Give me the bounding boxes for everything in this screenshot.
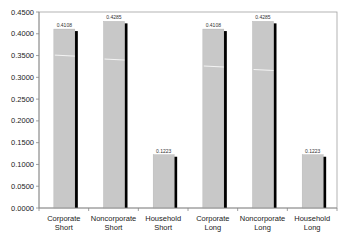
y-tick-label: 0.0000 xyxy=(11,204,34,213)
bar-chart: 0.00000.05000.10000.15000.20000.25000.30… xyxy=(0,0,354,238)
y-tick-label: 0.4500 xyxy=(11,8,34,17)
x-tick-label: Household xyxy=(294,214,330,223)
bar: 0.1223 xyxy=(302,148,326,208)
bar-fill xyxy=(153,155,174,208)
y-axis: 0.00000.05000.10000.15000.20000.25000.30… xyxy=(11,8,39,213)
data-label: 0.4285 xyxy=(255,14,271,20)
bar: 0.1223 xyxy=(153,148,177,208)
y-tick-label: 0.3000 xyxy=(11,73,34,82)
bar-shadow xyxy=(125,23,128,208)
plot-area xyxy=(39,12,337,208)
x-axis: CorporateShortNoncorporateShortHousehold… xyxy=(39,208,337,232)
y-tick-label: 0.4000 xyxy=(11,29,34,38)
bar: 0.4108 xyxy=(54,22,78,208)
x-tick-label: Long xyxy=(204,223,221,232)
y-tick-label: 0.1500 xyxy=(11,138,34,147)
y-tick-label: 0.0500 xyxy=(11,182,34,191)
x-tick-label: Noncorporate xyxy=(240,214,285,223)
x-tick-label: Long xyxy=(254,223,271,232)
y-tick-label: 0.2500 xyxy=(11,95,34,104)
x-tick-label: Household xyxy=(145,214,181,223)
bar: 0.4108 xyxy=(203,22,227,208)
y-tick-label: 0.2000 xyxy=(11,116,34,125)
bar: 0.4285 xyxy=(104,14,128,208)
bar-shadow xyxy=(75,31,78,208)
y-tick-label: 0.1000 xyxy=(11,160,34,169)
x-tick-label: Long xyxy=(304,223,321,232)
bar-fill xyxy=(302,155,323,208)
y-tick-label: 0.3500 xyxy=(11,51,34,60)
data-label: 0.4285 xyxy=(106,14,122,20)
bar-shadow xyxy=(274,23,277,208)
bar-shadow xyxy=(224,31,227,208)
data-label: 0.1223 xyxy=(305,148,321,154)
bar-fill xyxy=(253,21,274,208)
data-label: 0.4108 xyxy=(57,22,73,28)
bar-fill xyxy=(104,21,125,208)
x-tick-label: Short xyxy=(55,223,74,232)
x-tick-label: Short xyxy=(154,223,173,232)
data-label: 0.4108 xyxy=(206,22,222,28)
bar: 0.4285 xyxy=(253,14,277,208)
bar-shadow xyxy=(323,157,326,208)
x-tick-label: Noncorporate xyxy=(91,214,136,223)
bar-shadow xyxy=(174,157,177,208)
x-tick-label: Short xyxy=(105,223,124,232)
x-tick-label: Corporate xyxy=(196,214,229,223)
data-label: 0.1223 xyxy=(156,148,172,154)
x-tick-label: Corporate xyxy=(47,214,80,223)
bar-fill xyxy=(203,29,224,208)
